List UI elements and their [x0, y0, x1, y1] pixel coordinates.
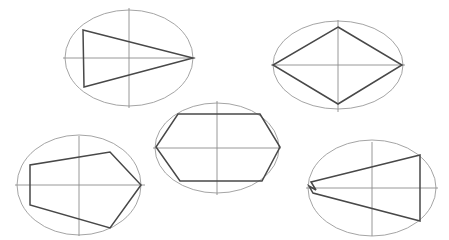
figure-canvas: [0, 0, 449, 240]
inscribed-polygon: [30, 152, 141, 228]
panel-top-right: [271, 20, 405, 112]
inscribed-polygon: [273, 27, 402, 104]
inscribed-polygons-diagram: [0, 0, 449, 240]
panel-bottom-right: [306, 140, 438, 236]
panel-middle: [153, 101, 281, 195]
inscribed-polygon: [156, 114, 280, 181]
panel-top-left: [63, 8, 195, 108]
inscribed-polygon: [83, 30, 193, 87]
panel-bottom-left: [15, 135, 145, 236]
